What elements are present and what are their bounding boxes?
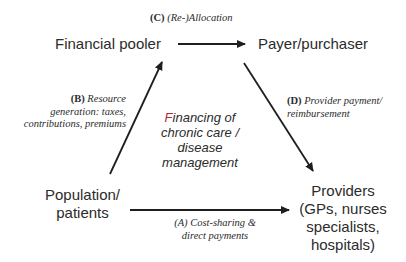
edge-label-c: (C) (Re-)Allocation xyxy=(150,12,233,25)
node-population-line1: Population/ xyxy=(40,186,125,204)
center-title-line3: disease xyxy=(140,140,260,155)
node-population-line2: patients xyxy=(40,204,125,222)
edge-label-a-line1: Cost-sharing & xyxy=(190,217,256,228)
edge-label-b: (B) Resource generation: taxes, contribu… xyxy=(4,93,126,131)
center-title-accent-letter: F xyxy=(165,110,173,125)
edge-label-d-code: (D) xyxy=(287,95,302,106)
node-providers-line1: Providers xyxy=(290,182,396,200)
edge-label-d-line1: Provider payment/ xyxy=(304,95,382,106)
edge-label-d-line2: reimbursement xyxy=(287,108,382,121)
node-financial-pooler-label: Financial pooler xyxy=(55,35,161,52)
node-providers: Providers (GPs, nurses specialists, hosp… xyxy=(290,182,396,254)
edge-label-d: (D) Provider payment/ reimbursement xyxy=(287,95,382,120)
center-title-line1-rest: inancing of xyxy=(173,110,236,125)
edge-label-a-code: (A) xyxy=(174,217,187,228)
node-payer-purchaser-label: Payer/purchaser xyxy=(258,35,368,52)
node-payer-purchaser: Payer/purchaser xyxy=(258,35,368,53)
edge-label-b-line3: contributions, premiums xyxy=(4,118,126,131)
center-title-line2: chronic care / xyxy=(140,125,260,140)
node-providers-line3: specialists, xyxy=(290,218,396,236)
financing-diagram: Financial pooler Payer/purchaser Populat… xyxy=(0,0,406,262)
center-title-line4: management xyxy=(140,155,260,170)
node-providers-line2: (GPs, nurses xyxy=(290,200,396,218)
node-providers-line4: hospitals) xyxy=(290,236,396,254)
node-population-patients: Population/ patients xyxy=(40,186,125,222)
node-financial-pooler: Financial pooler xyxy=(55,35,161,53)
center-title: Financing of chronic care / disease mana… xyxy=(140,110,260,170)
edge-label-a: (A) Cost-sharing & direct payments xyxy=(160,217,270,242)
edge-label-c-text: (Re-)Allocation xyxy=(167,12,232,23)
edge-label-a-line2: direct payments xyxy=(160,230,270,243)
edge-label-b-line1: Resource xyxy=(87,93,126,104)
edge-label-c-code: (C) xyxy=(150,12,165,23)
edge-label-b-code: (B) xyxy=(71,93,85,104)
edge-label-b-line2: generation: taxes, xyxy=(4,106,126,119)
center-title-line1: Financing of xyxy=(140,110,260,125)
